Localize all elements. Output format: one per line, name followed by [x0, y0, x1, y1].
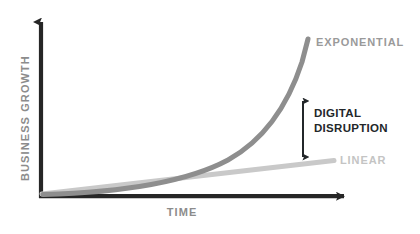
series-line-exponential [43, 39, 308, 195]
digital-disruption-label-line2: DISRUPTION [314, 122, 388, 134]
series-label-exponential: EXPONENTIAL [316, 36, 404, 48]
y-axis-title: BUSINESS GROWTH [19, 55, 31, 181]
chart-canvas: BUSINESS GROWTH TIME EXPONENTIAL LINEAR … [0, 0, 420, 234]
business-growth-chart: BUSINESS GROWTH TIME EXPONENTIAL LINEAR … [0, 0, 420, 234]
digital-disruption-label-line1: DIGITAL [314, 107, 361, 119]
series-label-linear: LINEAR [340, 154, 386, 166]
x-axis-title: TIME [167, 206, 198, 218]
